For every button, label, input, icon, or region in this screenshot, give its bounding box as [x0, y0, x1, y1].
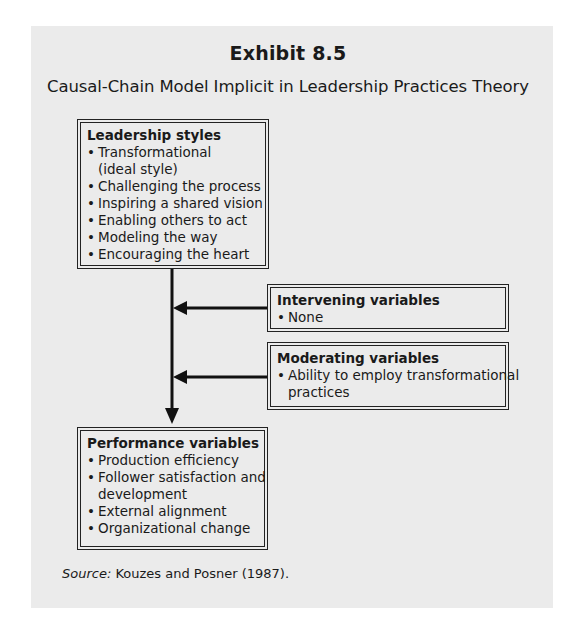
- source-text: Kouzes and Posner (1987).: [111, 566, 289, 581]
- source-label: Source:: [62, 566, 111, 581]
- main-causal-arrow: [165, 269, 179, 424]
- moderating-arrow: [173, 370, 267, 384]
- arrow-left-icon: [173, 301, 187, 315]
- arrow-left-icon: [173, 370, 187, 384]
- source-citation: Source: Kouzes and Posner (1987).: [62, 566, 289, 581]
- arrow-down-icon: [165, 408, 179, 424]
- causal-chain-connectors: [0, 0, 576, 623]
- intervening-arrow: [173, 301, 267, 315]
